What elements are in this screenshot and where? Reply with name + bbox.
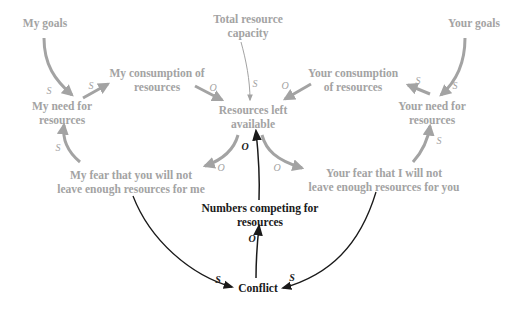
node-resources-left-line1: Resources left bbox=[219, 103, 287, 117]
node-total-capacity-line2: capacity bbox=[213, 26, 283, 40]
polarity-your-need-to-consumption: S bbox=[416, 75, 421, 86]
node-resources-left-line2: available bbox=[219, 117, 287, 131]
node-total-capacity-line1: Total resource bbox=[213, 12, 283, 26]
node-numbers-line2: resources bbox=[202, 215, 319, 229]
polarity-my-fear-to-conflict: S bbox=[215, 274, 221, 285]
node-your-goals-label: Your goals bbox=[448, 17, 500, 29]
polarity-conflict-to-numbers: O bbox=[248, 233, 255, 244]
node-my-fear-line1: My fear that you will not bbox=[57, 168, 205, 182]
node-total-resource-capacity: Total resource capacity bbox=[213, 12, 283, 40]
arrow-left-to-your-fear bbox=[262, 135, 302, 168]
arrow-your-fear-to-need bbox=[413, 126, 430, 162]
polarity-goals-to-my-need: S bbox=[47, 85, 52, 96]
node-my-need-line1: My need for bbox=[32, 99, 92, 113]
polarity-left-to-your-fear: O bbox=[273, 162, 280, 173]
node-conflict: Conflict bbox=[238, 281, 278, 295]
node-your-need-line2: resources bbox=[398, 113, 466, 127]
node-my-consumption-line1: My consumption of bbox=[109, 66, 204, 80]
arrow-conflict-to-numbers bbox=[256, 226, 259, 278]
node-conflict-label: Conflict bbox=[238, 282, 278, 294]
node-numbers-line1: Numbers competing for bbox=[202, 201, 319, 215]
node-my-goals-label: My goals bbox=[23, 17, 67, 29]
node-your-fear-line1: Your fear that I will not bbox=[309, 166, 460, 180]
node-your-fear: Your fear that I will not leave enough r… bbox=[309, 166, 460, 194]
polarity-your-consumption-to-left: O bbox=[281, 80, 288, 91]
polarity-numbers-to-left: O bbox=[241, 141, 248, 152]
arrow-numbers-to-left bbox=[256, 131, 259, 200]
node-your-need-line1: Your need for bbox=[398, 99, 466, 113]
node-your-consumption: Your consumption of resources bbox=[308, 66, 398, 94]
node-my-need-line2: resources bbox=[32, 113, 92, 127]
node-your-consumption-line2: of resources bbox=[308, 80, 398, 94]
polarity-my-fear-to-need: S bbox=[56, 142, 61, 153]
node-my-consumption-line2: resources bbox=[109, 80, 204, 94]
polarity-your-fear-to-conflict: S bbox=[289, 272, 295, 283]
arrow-capacity-to-left bbox=[241, 42, 250, 100]
node-your-goals: Your goals bbox=[448, 16, 500, 30]
node-my-goals: My goals bbox=[23, 16, 67, 30]
node-your-need: Your need for resources bbox=[398, 99, 466, 127]
node-my-need: My need for resources bbox=[32, 99, 92, 127]
node-your-consumption-line1: Your consumption bbox=[308, 66, 398, 80]
node-your-fear-line2: leave enough resources for you bbox=[309, 180, 460, 194]
arrow-my-need-to-consumption bbox=[83, 84, 108, 98]
arrow-my-fear-to-need bbox=[64, 125, 80, 162]
polarity-my-consumption-to-left: O bbox=[209, 82, 216, 93]
polarity-my-need-to-consumption: S bbox=[89, 80, 94, 91]
node-resources-left: Resources left available bbox=[219, 103, 287, 131]
causal-loop-diagram bbox=[0, 0, 517, 315]
node-numbers-competing: Numbers competing for resources bbox=[202, 201, 319, 229]
polarity-your-fear-to-need: S bbox=[437, 135, 442, 146]
polarity-capacity-to-left: S bbox=[253, 78, 258, 89]
node-my-consumption: My consumption of resources bbox=[109, 66, 204, 94]
node-my-fear-line2: leave enough resources for me bbox=[57, 182, 205, 196]
arrow-your-need-to-consumption bbox=[408, 85, 430, 94]
polarity-left-to-my-fear: O bbox=[217, 162, 224, 173]
node-my-fear: My fear that you will not leave enough r… bbox=[57, 168, 205, 196]
polarity-your-goals-to-need: S bbox=[453, 80, 458, 91]
